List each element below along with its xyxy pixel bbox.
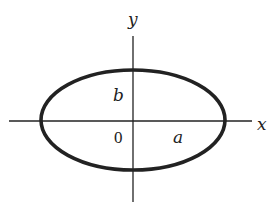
semi-major-label: a xyxy=(173,127,183,147)
ellipse-diagram: x y 0 a b xyxy=(0,0,274,216)
origin-label: 0 xyxy=(114,128,123,147)
x-axis-label: x xyxy=(257,114,267,134)
y-axis-label: y xyxy=(127,9,138,29)
semi-minor-label: b xyxy=(113,85,124,105)
